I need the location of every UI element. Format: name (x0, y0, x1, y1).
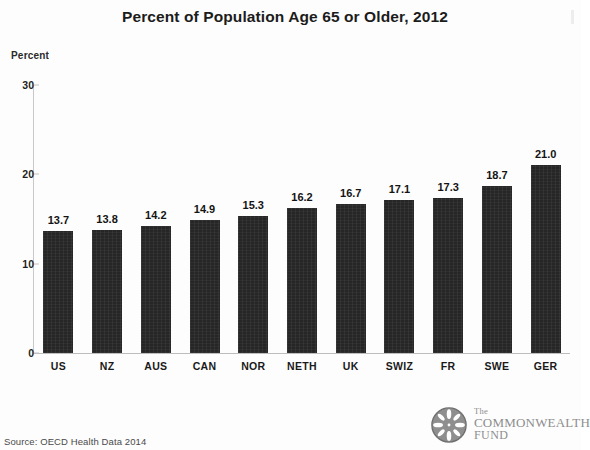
bar[interactable] (141, 226, 171, 353)
x-category-label: NOR (229, 360, 278, 372)
logo-line-commonwealth: COMMONWEALTH (474, 416, 590, 429)
bar-group: 13.7 (34, 85, 83, 353)
bar-value-label: 16.7 (340, 187, 361, 199)
bar-value-label: 16.2 (291, 191, 312, 203)
commonwealth-fund-logo: The COMMONWEALTH FUND (430, 404, 580, 448)
bar-group: 14.2 (131, 85, 180, 353)
bar-group: 14.9 (180, 85, 229, 353)
x-category-label: GER (521, 360, 570, 372)
scan-artifact (571, 10, 574, 24)
bar-group: 18.7 (473, 85, 522, 353)
bar-group: 16.2 (278, 85, 327, 353)
x-category-label: AUS (131, 360, 180, 372)
bar[interactable] (92, 230, 122, 353)
x-category-label: FR (424, 360, 473, 372)
bar-group: 17.3 (424, 85, 473, 353)
x-category-label: NZ (83, 360, 132, 372)
bar-value-label: 15.3 (243, 199, 264, 211)
bar-group: 21.0 (521, 85, 570, 353)
y-tick-label: 30 (0, 79, 34, 91)
x-category-label: SWIZ (375, 360, 424, 372)
chart-title: Percent of Population Age 65 or Older, 2… (0, 8, 570, 26)
bar-value-label: 14.2 (145, 209, 166, 221)
bar[interactable] (238, 216, 268, 353)
x-category-label: SWE (473, 360, 522, 372)
bar[interactable] (287, 208, 317, 353)
bar[interactable] (433, 198, 463, 353)
commonwealth-fund-emblem-icon (430, 406, 468, 444)
bar-value-label: 13.8 (96, 213, 117, 225)
x-axis-line (33, 353, 570, 354)
bar-group: 16.7 (326, 85, 375, 353)
bar[interactable] (336, 204, 366, 353)
bar-value-label: 18.7 (486, 169, 507, 181)
y-tick-label: 0 (0, 347, 34, 359)
bar-value-label: 14.9 (194, 203, 215, 215)
bar-group: 13.8 (83, 85, 132, 353)
x-category-label: CAN (180, 360, 229, 372)
bar[interactable] (531, 165, 561, 353)
y-axis-label: Percent (11, 50, 49, 61)
bar[interactable] (482, 186, 512, 353)
plot-area: 13.713.814.214.915.316.216.717.117.318.7… (34, 85, 570, 353)
logo-line-fund: FUND (474, 429, 590, 441)
bar-value-label: 17.1 (389, 183, 410, 195)
bar-value-label: 13.7 (48, 214, 69, 226)
x-category-label: US (34, 360, 83, 372)
x-category-label: NETH (278, 360, 327, 372)
bar-value-label: 21.0 (535, 148, 556, 160)
bar-value-label: 17.3 (437, 181, 458, 193)
x-category-label: UK (326, 360, 375, 372)
bar[interactable] (384, 200, 414, 353)
bar[interactable] (190, 220, 220, 353)
bar[interactable] (43, 231, 73, 353)
commonwealth-fund-wordmark: The COMMONWEALTH FUND (474, 407, 590, 441)
source-note: Source: OECD Health Data 2014 (4, 436, 146, 447)
bar-group: 15.3 (229, 85, 278, 353)
bar-group: 17.1 (375, 85, 424, 353)
y-tick-label: 10 (0, 258, 34, 270)
y-tick-label: 20 (0, 168, 34, 180)
